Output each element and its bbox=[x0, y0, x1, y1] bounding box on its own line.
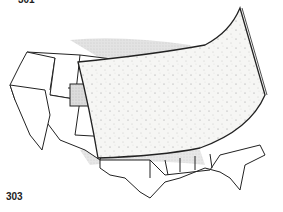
us-map-illustration bbox=[0, 0, 283, 212]
figure-label-bottom: 303 bbox=[6, 191, 23, 202]
curved-panel bbox=[78, 8, 265, 158]
